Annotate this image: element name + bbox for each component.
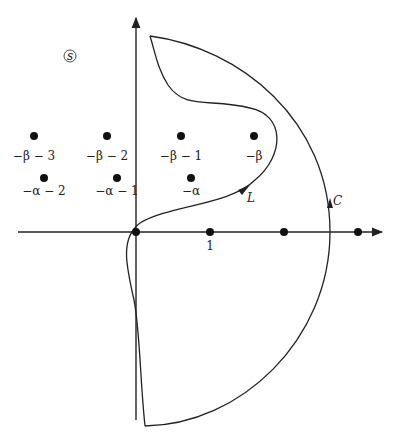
beta-poles: −β − 3 −β − 2 −β − 1 −β [13, 132, 263, 163]
contour-c [145, 36, 330, 426]
contour-l-label: L [246, 191, 255, 205]
pole-label: −α [182, 184, 200, 198]
pole-label: −α − 1 [95, 184, 138, 198]
pole-label: −β − 3 [13, 149, 55, 163]
alpha-poles: −α − 2 −α − 1 −α [22, 174, 200, 198]
contour-diagram: s L C −β − 3 −β − 2 −β − 1 −β −α − 2 −α … [0, 0, 401, 447]
pole-label: −β − 1 [160, 149, 202, 163]
pole-label: −β [246, 149, 263, 163]
s-plane-label: s [64, 49, 76, 63]
contour-l [127, 36, 277, 426]
pole-label: −β − 2 [86, 149, 128, 163]
pole-label: −α − 2 [22, 184, 65, 198]
axis-point-label: 1 [206, 239, 214, 253]
contour-c-label: C [333, 194, 342, 208]
svg-text:s: s [67, 49, 73, 63]
